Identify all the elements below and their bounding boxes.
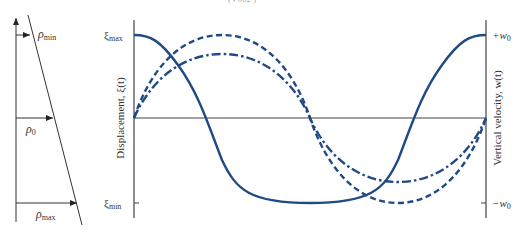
w0-minus-label: −w0 bbox=[492, 197, 511, 211]
w0-plus-label: +w0 bbox=[492, 29, 511, 43]
rho-min-label: ρmin bbox=[37, 27, 56, 42]
displacement-axis-title: Displacement, ξ(t) bbox=[114, 77, 127, 159]
oscillation-chart: ξmax ξmin +w0 −w0 Displacement, ξ(t) Ver… bbox=[104, 20, 511, 218]
density-profile-line bbox=[28, 15, 82, 225]
rho-max-label: ρmax bbox=[35, 207, 56, 222]
xi-min-label: ξmin bbox=[104, 197, 121, 211]
diagram-canvas: ρmin ρ0 ρmax ξmax ξmin +w0 −w0 Displacem… bbox=[0, 0, 522, 234]
density-profile-panel: ρmin ρ0 ρmax bbox=[16, 15, 82, 225]
velocity-axis-title: Vertical velocity, w(t) bbox=[491, 70, 504, 166]
xi-max-label: ξmax bbox=[104, 29, 123, 43]
rho-0-label: ρ0 bbox=[25, 122, 36, 137]
